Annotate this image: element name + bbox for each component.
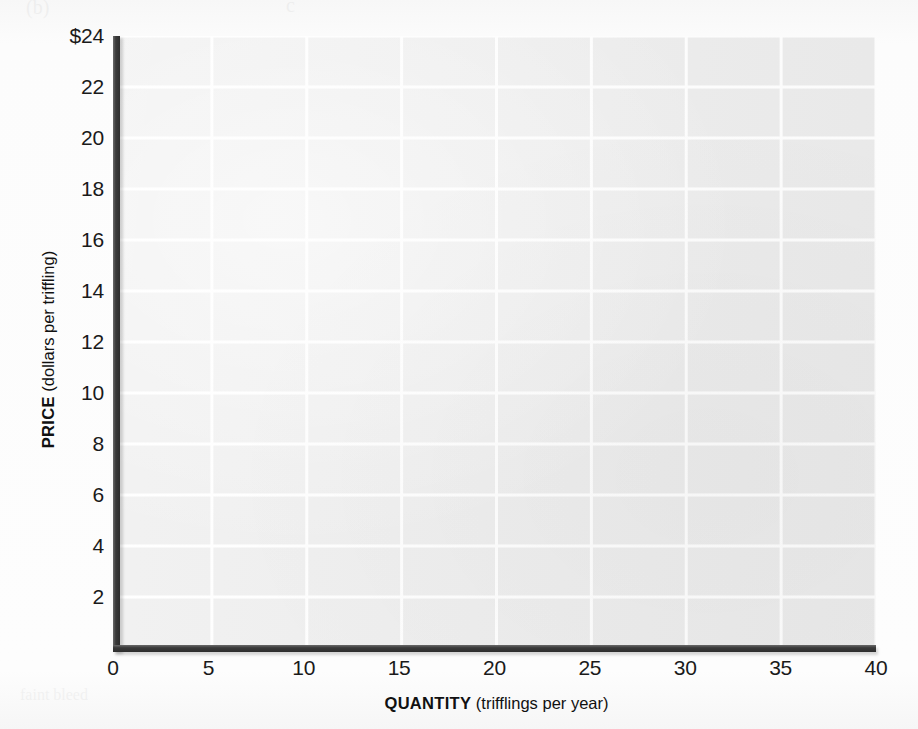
x-tick-label: 25 (555, 657, 625, 678)
y-tick-label: 4 (44, 535, 104, 556)
x-axis-title-units: (trifflings per year) (476, 694, 609, 712)
x-axis-tick-labels: 0510152025303540 (0, 657, 918, 687)
y-tick-label: 22 (44, 76, 104, 97)
x-tick-label: 15 (364, 657, 434, 678)
x-tick-label: 10 (269, 657, 339, 678)
x-axis-line (113, 645, 876, 652)
x-axis-title: QUANTITY (trifflings per year) (117, 694, 876, 713)
y-tick-label: $24 (44, 25, 104, 46)
y-axis-title-name: PRICE (39, 396, 57, 448)
x-tick-label: 40 (841, 657, 911, 678)
plot-area (117, 36, 876, 648)
y-tick-label: 18 (44, 178, 104, 199)
y-axis-title: PRICE (dollars per triffling) (39, 220, 58, 480)
chart-figure: $24222018161412108642 0510152025303540 P… (0, 0, 918, 729)
y-tick-label: 20 (44, 127, 104, 148)
x-axis-title-name: QUANTITY (385, 694, 472, 712)
y-axis-line (113, 36, 120, 652)
x-tick-label: 20 (460, 657, 530, 678)
y-axis-title-units: (dollars per triffling) (39, 251, 57, 392)
gridlines (117, 36, 876, 648)
x-tick-label: 30 (650, 657, 720, 678)
x-tick-label: 0 (78, 657, 148, 678)
y-tick-label: 2 (44, 586, 104, 607)
x-tick-label: 35 (746, 657, 816, 678)
y-tick-label: 6 (44, 484, 104, 505)
x-tick-label: 5 (173, 657, 243, 678)
